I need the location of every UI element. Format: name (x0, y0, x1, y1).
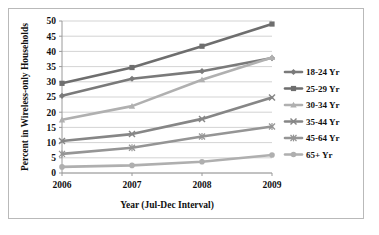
data-point-marker-diamond (290, 69, 296, 75)
y-tick-label: 25 (47, 92, 57, 102)
line-chart: 05101520253035404550 2006200720082009 18… (0, 0, 379, 235)
y-tick-label: 35 (47, 62, 57, 72)
y-tick-label: 40 (47, 47, 57, 57)
y-tick-label: 0 (51, 168, 56, 178)
series-line (62, 155, 272, 167)
x-tick-label: 2008 (193, 180, 212, 190)
series-35-44-yr (59, 95, 275, 144)
legend-item-35-44-yr[interactable]: 35-44 Yr (285, 117, 339, 127)
chart-legend: 18-24 Yr25-29 Yr30-34 Yr35-44 Yr45-64 Yr… (285, 67, 339, 159)
legend-item-45-64-yr[interactable]: 45-64 Yr (285, 133, 339, 143)
y-tick-label: 10 (47, 138, 57, 148)
y-tick-label: 50 (47, 16, 57, 26)
legend-label: 35-44 Yr (306, 117, 339, 127)
y-tick-label: 5 (51, 153, 56, 163)
x-tick-label: 2007 (123, 180, 142, 190)
series-line (62, 126, 272, 153)
legend-label: 18-24 Yr (306, 67, 339, 77)
series-line (62, 98, 272, 141)
data-point-marker-square (129, 65, 134, 70)
y-tick-label: 30 (47, 77, 57, 87)
data-point-marker-diamond (59, 93, 65, 99)
legend-label: 25-29 Yr (306, 84, 339, 94)
y-tick-label: 15 (47, 123, 57, 133)
data-point-marker-circle (291, 152, 297, 158)
legend-item-65-yr[interactable]: 65+ Yr (285, 150, 333, 160)
legend-label: 45-64 Yr (306, 133, 339, 143)
data-point-marker-diamond (129, 76, 135, 82)
data-point-marker-circle (129, 163, 135, 169)
figure-container: 05101520253035404550 2006200720082009 18… (0, 0, 379, 235)
series-45-64-yr (59, 123, 275, 157)
data-point-marker-circle (269, 152, 275, 158)
y-axis-tick-labels: 05101520253035404550 (47, 16, 57, 178)
data-point-marker-circle (199, 159, 205, 165)
data-point-marker-circle (59, 164, 65, 170)
data-point-marker-square (59, 81, 64, 86)
data-point-marker-square (269, 21, 274, 26)
legend-label: 30-34 Yr (306, 100, 339, 110)
data-series (59, 21, 275, 169)
legend-item-30-34-yr[interactable]: 30-34 Yr (285, 100, 339, 110)
data-point-marker-square (199, 44, 204, 49)
legend-item-18-24-yr[interactable]: 18-24 Yr (285, 67, 339, 77)
data-point-marker-square (291, 86, 296, 91)
x-axis-tick-labels: 2006200720082009 (53, 180, 282, 190)
y-axis-title: Percent in Wireless-only Households (20, 23, 30, 171)
y-tick-label: 20 (47, 108, 57, 118)
series-65-yr (59, 152, 275, 169)
legend-item-25-29-yr[interactable]: 25-29 Yr (285, 84, 339, 94)
data-point-marker-diamond (199, 68, 205, 74)
x-tick-label: 2006 (53, 180, 72, 190)
x-axis-title: Year (Jul-Dec Interval) (120, 200, 214, 211)
legend-label: 65+ Yr (306, 150, 333, 160)
x-tick-label: 2009 (263, 180, 282, 190)
y-tick-label: 45 (47, 32, 57, 42)
